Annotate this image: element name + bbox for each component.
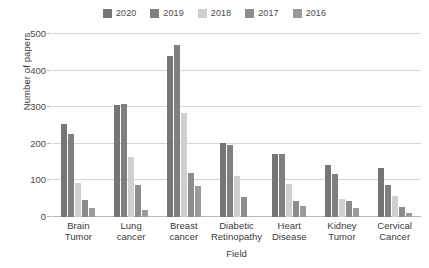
bar[interactable] xyxy=(75,183,81,217)
bars-layer xyxy=(52,34,421,217)
x-tick-label: KidneyTumor xyxy=(316,220,369,242)
bar[interactable] xyxy=(167,56,173,217)
bar[interactable] xyxy=(68,134,74,217)
bar-group xyxy=(316,34,369,217)
x-tick-label-line: Retinopathy xyxy=(210,231,263,242)
legend-swatch-icon xyxy=(245,9,254,18)
legend-swatch-icon xyxy=(198,9,207,18)
x-tick-label-line: cancer xyxy=(157,231,210,242)
bar-group xyxy=(52,34,105,217)
x-tick-label-line: Diabetic xyxy=(210,220,263,231)
y-tick-mark xyxy=(47,179,51,180)
bar[interactable] xyxy=(300,206,306,217)
x-tick-label-line: Cervical xyxy=(368,220,421,231)
bar[interactable] xyxy=(378,168,384,217)
y-tick-mark xyxy=(47,70,51,71)
x-tick-label: CervicalCancer xyxy=(368,220,421,242)
bar-group xyxy=(263,34,316,217)
bar[interactable] xyxy=(89,208,95,217)
legend-swatch-icon xyxy=(293,9,302,18)
bar[interactable] xyxy=(385,185,391,217)
bar-group xyxy=(105,34,158,217)
legend-swatch-icon xyxy=(150,9,159,18)
chart-legend: 20202019201820172016 xyxy=(0,9,429,18)
x-tick-label-line: Kidney xyxy=(316,220,369,231)
x-tick-label-line: Disease xyxy=(263,231,316,242)
legend-label: 2019 xyxy=(163,9,183,18)
bar[interactable] xyxy=(325,165,331,217)
x-tick-label-line: cancer xyxy=(105,231,158,242)
x-tick-label: HeartDisease xyxy=(263,220,316,242)
x-tick-label: Lungcancer xyxy=(105,220,158,242)
bar[interactable] xyxy=(135,185,141,217)
bar[interactable] xyxy=(241,197,247,217)
legend-swatch-icon xyxy=(103,9,112,18)
legend-label: 2016 xyxy=(306,9,326,18)
legend-item-2018[interactable]: 2018 xyxy=(198,9,231,18)
legend-label: 2017 xyxy=(258,9,278,18)
y-tick-mark xyxy=(47,33,51,34)
bar[interactable] xyxy=(82,200,88,217)
y-tick-label: 200 xyxy=(30,137,46,148)
bar[interactable] xyxy=(353,208,359,217)
bar[interactable] xyxy=(286,184,292,217)
bar[interactable] xyxy=(399,207,405,217)
plot-area: 0100200300400500 xyxy=(52,34,421,217)
bar[interactable] xyxy=(272,154,278,217)
legend-label: 2020 xyxy=(116,9,136,18)
x-tick-label: DiabeticRetinopathy xyxy=(210,220,263,242)
bar[interactable] xyxy=(188,173,194,217)
x-axis-tick-labels: BrainTumorLungcancerBreastcancerDiabetic… xyxy=(52,220,421,242)
x-tick-label-line: Tumor xyxy=(52,231,105,242)
y-tick-label: 0 xyxy=(41,211,46,222)
y-tick-label: 400 xyxy=(30,64,46,75)
bar[interactable] xyxy=(195,186,201,217)
x-axis-title: Field xyxy=(52,248,421,259)
x-tick-label-line: Lung xyxy=(105,220,158,231)
bar-chart: 20202019201820172016 Number of papers 01… xyxy=(0,0,429,268)
bar[interactable] xyxy=(181,113,187,217)
x-tick-label: Breastcancer xyxy=(157,220,210,242)
y-tick-mark xyxy=(47,216,51,217)
bar[interactable] xyxy=(227,145,233,217)
y-tick-label: 300 xyxy=(30,101,46,112)
legend-item-2017[interactable]: 2017 xyxy=(245,9,278,18)
bar[interactable] xyxy=(346,201,352,217)
bar[interactable] xyxy=(121,104,127,217)
x-tick-label-line: Brain xyxy=(52,220,105,231)
x-tick-label-line: Tumor xyxy=(316,231,369,242)
legend-label: 2018 xyxy=(211,9,231,18)
bar[interactable] xyxy=(339,199,345,217)
y-tick-mark xyxy=(47,143,51,144)
bar[interactable] xyxy=(220,143,226,217)
y-tick-mark xyxy=(47,106,51,107)
bar[interactable] xyxy=(142,210,148,217)
y-tick-label: 100 xyxy=(30,174,46,185)
x-tick-label: BrainTumor xyxy=(52,220,105,242)
bar[interactable] xyxy=(128,157,134,217)
legend-item-2019[interactable]: 2019 xyxy=(150,9,183,18)
y-tick-label: 500 xyxy=(30,28,46,39)
bar[interactable] xyxy=(406,213,412,217)
legend-item-2020[interactable]: 2020 xyxy=(103,9,136,18)
legend-item-2016[interactable]: 2016 xyxy=(293,9,326,18)
x-tick-label-line: Cancer xyxy=(368,231,421,242)
bar-group xyxy=(157,34,210,217)
bar-group xyxy=(368,34,421,217)
bar[interactable] xyxy=(332,174,338,217)
bar[interactable] xyxy=(392,196,398,217)
x-tick-label-line: Heart xyxy=(263,220,316,231)
bar-group xyxy=(210,34,263,217)
bar[interactable] xyxy=(61,124,67,217)
bar[interactable] xyxy=(279,154,285,217)
bar[interactable] xyxy=(293,201,299,217)
bar[interactable] xyxy=(114,105,120,217)
bar[interactable] xyxy=(234,176,240,217)
bar[interactable] xyxy=(174,45,180,217)
x-tick-label-line: Breast xyxy=(157,220,210,231)
